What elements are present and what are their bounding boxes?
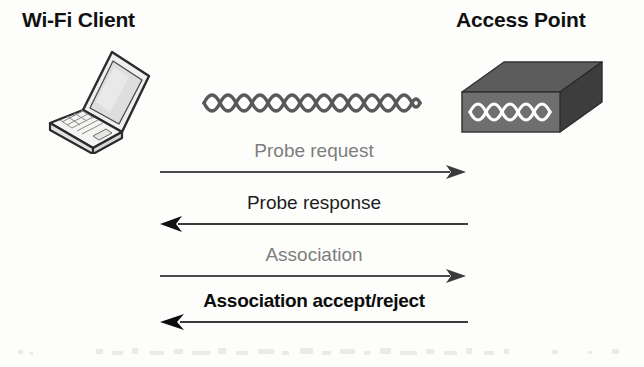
message-row: Probe response: [158, 192, 470, 238]
access-point-label: Access Point: [456, 8, 586, 32]
arrow-left-icon: [158, 314, 470, 330]
message-label: Association accept/reject: [158, 290, 470, 312]
message-row: Probe request: [158, 140, 470, 186]
wireless-wave-icon: [200, 84, 424, 126]
message-row: Association accept/reject: [158, 290, 470, 336]
laptop-icon: [36, 44, 156, 158]
message-label: Association: [158, 244, 470, 266]
message-label: Probe request: [158, 140, 470, 162]
access-point-icon: [456, 56, 608, 152]
message-row: Association: [158, 244, 470, 290]
client-label: Wi-Fi Client: [22, 8, 135, 32]
arrow-right-icon: [158, 268, 470, 284]
message-label: Probe response: [158, 192, 470, 214]
scan-artifact-noise: [0, 338, 644, 367]
diagram-canvas: Wi-Fi Client: [0, 0, 644, 367]
arrow-right-icon: [158, 164, 470, 180]
arrow-left-icon: [158, 216, 470, 232]
